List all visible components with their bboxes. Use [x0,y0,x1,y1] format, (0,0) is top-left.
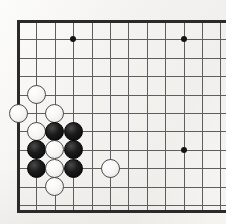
white-stone-c-upper [27,85,46,104]
white-stone-left-edge [9,104,28,123]
black-stone-cluster-top-mid [45,122,64,141]
white-stone-cluster-low-mid [45,159,64,178]
white-stone-right-of-edge [45,104,64,123]
white-stone-cluster-top-left [27,122,46,141]
black-stone-cluster-low-left [27,159,46,178]
black-stone-cluster-low-right [64,159,83,178]
white-stone-right-extension [101,159,120,178]
go-board-diagram [0,0,226,224]
black-stone-cluster-top-right [64,122,83,141]
white-stone-bottom [45,177,64,196]
black-stone-cluster-mid-right [64,140,83,159]
white-stone-cluster-center [45,140,64,159]
stone-layer [0,0,226,224]
black-stone-cluster-mid-left [27,140,46,159]
